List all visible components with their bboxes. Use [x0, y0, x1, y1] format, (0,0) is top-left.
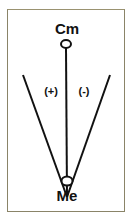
top-node-label: Cm [55, 20, 79, 37]
top-node-circle [61, 40, 71, 48]
negative-angle-label: (-) [79, 85, 90, 97]
positive-angle-label: (+) [44, 85, 58, 97]
vertical-reference-line [66, 48, 67, 197]
cephalometric-diagram: Cm (+) (-) Me [0, 0, 134, 222]
bottom-node-label: Me [57, 187, 78, 204]
bottom-node-circle [62, 177, 73, 186]
